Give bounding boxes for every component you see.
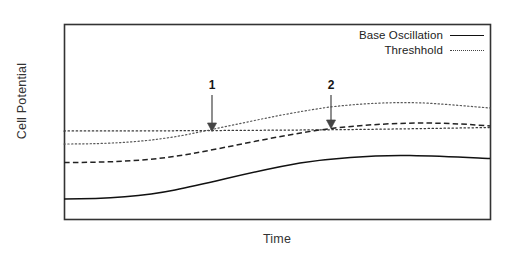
legend-dotted-line-icon [450, 45, 484, 55]
annotation-label-1: 1 [202, 78, 222, 92]
annotation-label-2: 2 [321, 78, 341, 92]
legend-label-threshhold: Threshhold [384, 44, 443, 56]
legend: Base Oscillation Threshhold [336, 27, 484, 57]
legend-item-threshhold: Threshhold [336, 42, 484, 57]
legend-item-base-oscillation: Base Oscillation [336, 27, 484, 42]
figure-container: Cell Potential Time 1 2 Base Oscillation [0, 0, 516, 261]
legend-solid-line-icon [450, 30, 484, 40]
legend-label-base-oscillation: Base Oscillation [359, 29, 443, 41]
